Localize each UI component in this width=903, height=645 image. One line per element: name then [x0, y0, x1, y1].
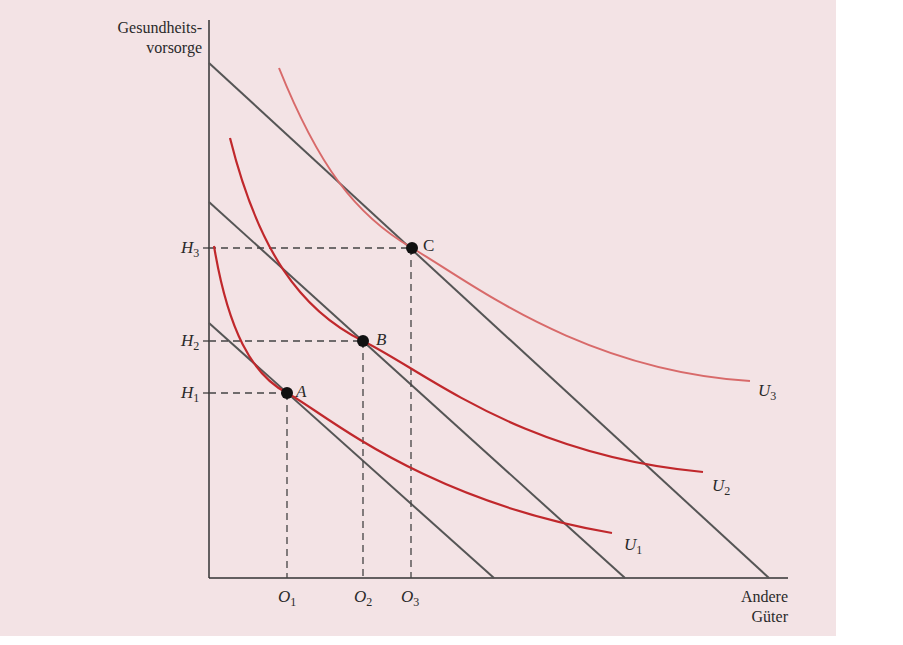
curve-u3-label: U3: [758, 381, 776, 406]
point-b-label: B: [376, 330, 386, 350]
y-tick-h1: H1: [181, 383, 199, 408]
indifference-curve-u1: [214, 246, 612, 533]
point-c: [406, 242, 418, 254]
x-tick-o1: O1: [278, 587, 296, 612]
curve-u2-label: U2: [712, 476, 730, 501]
budget-line-2: [209, 202, 625, 578]
y-tick-h2: H2: [181, 331, 199, 356]
y-axis-title: Gesundheits- vorsorge: [110, 18, 202, 58]
y-axis-title-line1: Gesundheits-: [110, 18, 202, 38]
point-a: [281, 387, 293, 399]
point-b: [357, 335, 369, 347]
y-axis-title-line2: vorsorge: [110, 38, 202, 58]
indifference-curve-diagram: [0, 0, 903, 645]
point-c-label: C: [423, 236, 434, 256]
curve-u1-label: U1: [624, 535, 642, 560]
x-axis-title: Andere Güter: [700, 587, 788, 627]
x-axis-title-line2: Güter: [700, 607, 788, 627]
indifference-curve-u2: [230, 138, 703, 472]
y-tick-h3: H3: [181, 238, 199, 263]
x-tick-o2: O2: [354, 587, 372, 612]
point-a-label: A: [296, 382, 306, 402]
x-tick-o3: O3: [401, 587, 419, 612]
x-axis-title-line1: Andere: [700, 587, 788, 607]
